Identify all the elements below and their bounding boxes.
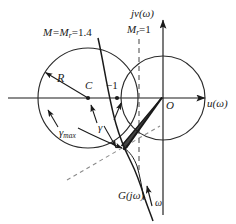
origin-dot (162, 93, 164, 95)
label-minus-one: −1 (106, 80, 118, 91)
omega-direction-arrow (147, 186, 152, 206)
label-radius: R (57, 72, 64, 84)
radius-arrow (46, 73, 89, 99)
label-real-axis: u(ω) (207, 98, 228, 109)
tangent-dashed-line (67, 126, 160, 180)
label-origin: O (166, 100, 174, 111)
label-omega: ω (155, 198, 162, 208)
label-gamma-max: γmax (59, 127, 76, 139)
label-m-circle-1p4: M=Mr=1.4 (43, 27, 92, 39)
minus-one-dot (115, 96, 119, 100)
gamma-max-leader-arrow (48, 110, 58, 127)
gamma-leader-arrow-up (91, 105, 97, 123)
gamma-leader-arrow-down (104, 126, 116, 147)
figure-canvas: M=Mr=1.4 Mr=1 jv(ω) u(ω) O R C −1 γmax γ… (0, 0, 236, 224)
gamma-leader-arrow-right (114, 103, 121, 120)
label-m-circle-unit: Mr=1 (127, 24, 151, 36)
center-point-dot (86, 96, 90, 100)
label-center-c: C (85, 80, 92, 91)
label-gamma: γ (98, 122, 102, 133)
phase-margin-wedge (121, 98, 162, 149)
label-transfer-function: G(jω) (118, 190, 144, 201)
label-imaginary-axis: jv(ω) (131, 8, 154, 19)
